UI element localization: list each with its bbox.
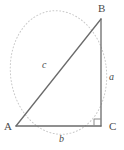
vertex-label-c: C <box>109 121 116 132</box>
side-c-hypotenuse <box>16 19 101 126</box>
right-angle-marker-icon <box>94 119 101 126</box>
geometry-figure: A B C a b c <box>0 0 124 150</box>
vertex-label-a: A <box>4 121 12 132</box>
vertex-label-b: B <box>98 3 105 14</box>
side-label-b: b <box>59 134 64 144</box>
triangle-canvas <box>0 0 124 150</box>
side-label-a: a <box>109 72 114 82</box>
side-label-c: c <box>42 60 46 70</box>
